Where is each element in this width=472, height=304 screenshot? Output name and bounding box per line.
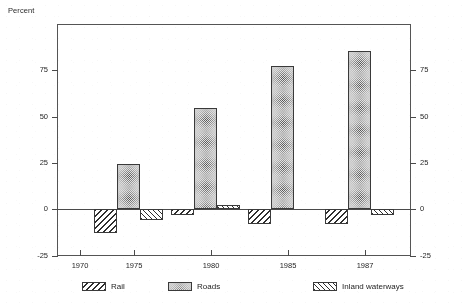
bar-rail-1975 — [94, 209, 117, 233]
y-tick-mark-50-left — [52, 117, 58, 118]
bar-inland-waterways-1980 — [217, 205, 240, 209]
x-tick-label-1980: 1980 — [203, 262, 220, 270]
bar-rail-1985 — [248, 209, 271, 224]
x-tick-mark-1980 — [211, 250, 212, 256]
y-tick-label-0-right: 0 — [420, 205, 446, 213]
bar-roads-1980 — [194, 108, 217, 209]
legend-label-roads: Roads — [197, 281, 220, 292]
bar-roads-1987 — [348, 51, 371, 209]
y-axis-title: Percent — [8, 6, 35, 15]
bar-inland-waterways-1987 — [371, 209, 394, 215]
y-tick-label-75-left: 75 — [22, 66, 48, 74]
legend-label-inland-waterways: Inland waterways — [342, 281, 404, 292]
y-tick-label-25-left: 25 — [22, 159, 48, 167]
legend-label-rail: Rail — [111, 281, 125, 292]
x-tick-label-1985: 1985 — [280, 262, 297, 270]
x-tick-mark-1975 — [134, 250, 135, 256]
y-tick-label-25-right: 25 — [420, 159, 446, 167]
y-tick-mark-75-left — [52, 70, 58, 71]
bar-roads-1985 — [271, 66, 294, 209]
y-tick-mark-25-left — [52, 163, 58, 164]
bar-inland-waterways-1975 — [140, 209, 163, 220]
x-tick-mark-1987 — [365, 250, 366, 256]
y-tick-mark-25-right — [410, 163, 416, 164]
bar-roads-1975 — [117, 164, 140, 209]
chart-legend: Rail Roads Inland waterways — [0, 281, 472, 299]
y-tick-mark-neg25-left — [52, 256, 58, 257]
x-tick-label-1975: 1975 — [126, 262, 143, 270]
y-tick-label-50-right: 50 — [420, 113, 446, 121]
legend-swatch-rail-icon — [82, 282, 106, 291]
legend-swatch-roads-icon — [168, 282, 192, 291]
x-tick-label-1970: 1970 — [72, 262, 89, 270]
y-tick-mark-75-right — [410, 70, 416, 71]
x-tick-mark-1970 — [80, 250, 81, 256]
y-tick-label-0-left: 0 — [22, 205, 48, 213]
bar-chart: Percent 75 50 25 0 -25 75 50 25 0 -25 19… — [0, 0, 472, 304]
y-tick-label-neg25-left: -25 — [22, 252, 48, 260]
y-tick-mark-50-right — [410, 117, 416, 118]
x-tick-label-1987: 1987 — [357, 262, 374, 270]
legend-swatch-inland-waterways-icon — [313, 282, 337, 291]
y-tick-mark-neg25-right — [410, 256, 416, 257]
y-tick-label-neg25-right: -25 — [420, 252, 446, 260]
y-tick-label-75-right: 75 — [420, 66, 446, 74]
x-tick-mark-1985 — [288, 250, 289, 256]
bar-rail-1987 — [325, 209, 348, 224]
y-tick-label-50-left: 50 — [22, 113, 48, 121]
bar-rail-1980 — [171, 209, 194, 215]
